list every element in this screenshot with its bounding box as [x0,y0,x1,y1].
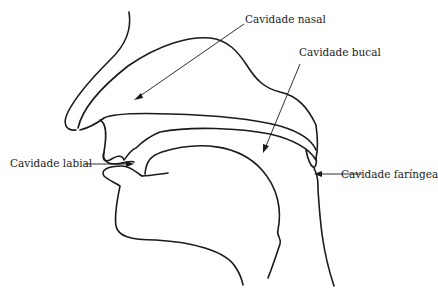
palate-upper-line [80,114,316,150]
label-cavidade-labial: Cavidade labial [10,158,92,169]
label-cavidade-bucal: Cavidade bucal [299,47,381,58]
upper-lip-outline [100,120,316,161]
arrowhead-nasal [134,93,143,100]
tongue-outline [145,146,280,278]
pointer-nasal [140,24,244,96]
pointer-bucal [266,64,300,146]
label-cavidade-nasal: Cavidade nasal [245,14,326,25]
arrowhead-bucal [263,144,269,153]
lower-teeth-outline [142,173,168,176]
nose-outline [65,12,130,130]
lower-lip-chin-outline [103,166,243,285]
pharynx-wall [314,168,334,286]
label-cavidade-faringea: Cavidade faríngea [341,169,438,180]
